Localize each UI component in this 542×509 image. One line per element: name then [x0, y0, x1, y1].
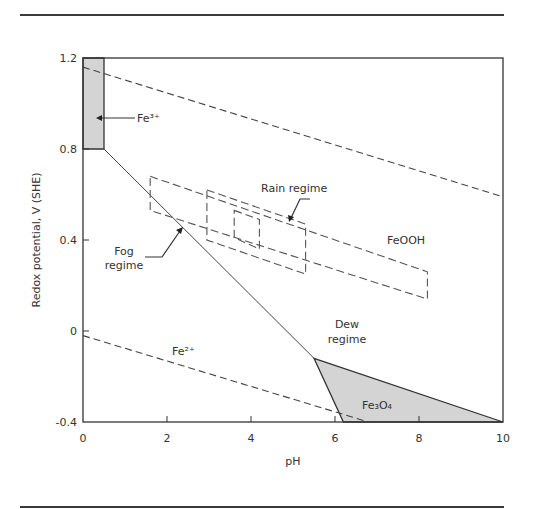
x-axis-label: pH [285, 455, 300, 468]
y-tick-label: 1.2 [60, 52, 78, 65]
y-tick-label: -0.4 [56, 416, 77, 429]
region-fe3o4 [314, 358, 503, 422]
rain-arrow [291, 199, 310, 218]
x-tick-label: 0 [80, 432, 87, 445]
x-tick-label: 4 [248, 432, 255, 445]
pourbaix-diagram: 02468101.20.80.40-0.4 Fe³⁺ FeOOH Rain re… [0, 0, 542, 509]
label-fe3o4: Fe₃O₄ [362, 399, 393, 412]
box-rain-regime-outer- [207, 190, 306, 274]
bottom-rule [20, 506, 504, 508]
label-fe3: Fe³⁺ [137, 112, 160, 125]
box-rain-regime-inner- [234, 210, 259, 249]
label-fog-1: Fog [114, 245, 134, 258]
line-fe2-feooh-boundary [104, 149, 314, 358]
rain-arrowhead-icon [288, 215, 294, 222]
label-rain-regime: Rain regime [261, 182, 327, 195]
label-dew-1: Dew [335, 318, 359, 331]
y-tick-label: 0 [70, 325, 77, 338]
label-dew-2: regime [328, 333, 367, 346]
line-o2-h2o-upper-stability-limit [83, 67, 503, 197]
x-tick-label: 8 [416, 432, 423, 445]
region-fe3- [83, 58, 104, 149]
x-tick-label: 10 [496, 432, 510, 445]
x-tick-label: 2 [164, 432, 171, 445]
label-fog-2: regime [105, 259, 144, 272]
label-fe2: Fe²⁺ [172, 345, 195, 358]
y-tick-label: 0.4 [60, 234, 78, 247]
fog-arrowhead-icon [176, 227, 183, 234]
y-tick-label: 0.8 [60, 143, 78, 156]
label-feooh: FeOOH [387, 234, 425, 247]
fog-arrow [145, 231, 180, 257]
x-tick-label: 6 [332, 432, 339, 445]
y-axis-label: Redox potential, V (SHE) [30, 172, 43, 307]
